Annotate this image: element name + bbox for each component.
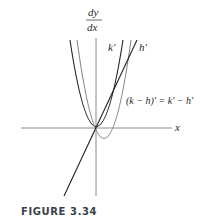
- curve-h-prime: [64, 40, 137, 196]
- y-axis-label-denominator: dx: [87, 21, 98, 33]
- label-k-prime: k': [108, 41, 116, 53]
- label-difference: (k − h)' = k' − h': [126, 95, 194, 107]
- y-axis-label-numerator: dy: [88, 6, 99, 18]
- x-axis-label: x: [174, 121, 180, 133]
- figure-caption: FIGURE 3.34: [21, 206, 97, 217]
- derivative-plot: dy dx k' h' (k − h)' = k' − h' x: [0, 0, 212, 223]
- label-h-prime: h': [139, 41, 148, 53]
- curve-k-minus-h-prime: [77, 40, 131, 139]
